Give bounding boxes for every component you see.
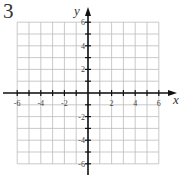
x-tick-label: -6 bbox=[14, 99, 21, 108]
x-tick-label: 4 bbox=[133, 99, 137, 108]
x-tick-label: 6 bbox=[157, 99, 161, 108]
x-tick-label: 2 bbox=[110, 99, 114, 108]
y-tick-label: 4 bbox=[81, 42, 85, 51]
y-tick-label: 6 bbox=[81, 18, 85, 27]
tick-labels: -6-4-2246642-2-4-6xy bbox=[14, 3, 179, 169]
x-tick-label: -4 bbox=[37, 99, 44, 108]
y-tick-label: 2 bbox=[81, 65, 85, 74]
x-axis-label: x bbox=[172, 92, 179, 107]
y-tick-label: -2 bbox=[78, 113, 85, 122]
y-arrow-icon bbox=[85, 7, 91, 16]
coordinate-grid: -6-4-2246642-2-4-6xy bbox=[0, 0, 180, 178]
y-tick-label: -6 bbox=[78, 160, 85, 169]
x-tick-label: -2 bbox=[61, 99, 68, 108]
y-tick-label: -4 bbox=[78, 136, 85, 145]
y-axis-label: y bbox=[72, 3, 80, 18]
